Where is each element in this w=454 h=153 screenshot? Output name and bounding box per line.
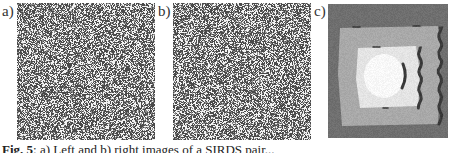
- right-random-dot-image: [173, 3, 311, 140]
- caption-prefix: Fig. 5: [2, 142, 33, 153]
- panel-label-b: b): [158, 4, 171, 19]
- left-random-dot-image: [17, 3, 155, 140]
- panel-label-c: c): [314, 4, 326, 19]
- caption-text: : a) Left and b) right images of a SIRDS…: [33, 142, 275, 153]
- panel-label-a: a): [2, 4, 14, 19]
- disparity-map-image: [328, 4, 448, 138]
- figure-caption: Fig. 5: a) Left and b) right images of a…: [2, 143, 275, 153]
